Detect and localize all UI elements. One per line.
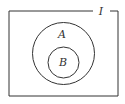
- set-b-label: B: [58, 56, 67, 69]
- venn-diagram: I A B: [0, 0, 125, 104]
- universe-label: I: [98, 5, 104, 18]
- set-a-label: A: [57, 28, 66, 41]
- universe-rectangle: [9, 11, 118, 96]
